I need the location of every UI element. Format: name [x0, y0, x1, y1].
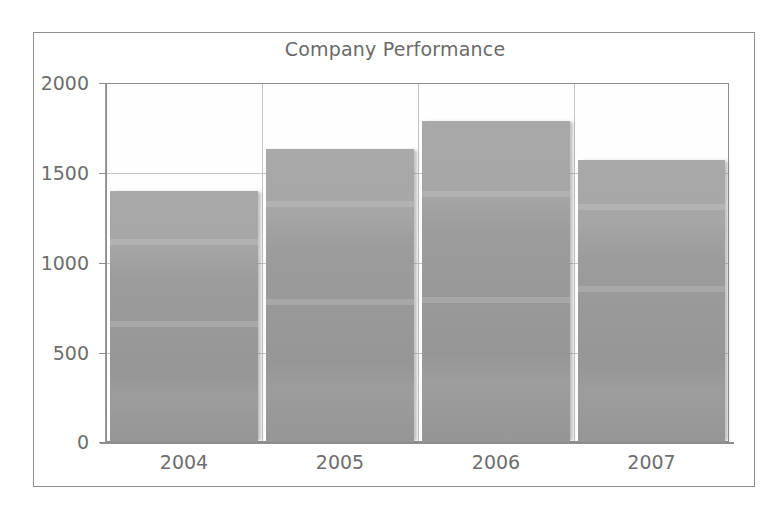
bar-2004[interactable]	[110, 191, 258, 442]
y-tick-label-0: 0	[0, 431, 89, 453]
y-tick-label-1500: 1500	[0, 162, 89, 184]
x-tick-label-2005: 2005	[262, 451, 418, 473]
bar-2006[interactable]	[422, 121, 570, 442]
bar-slot-2005	[262, 83, 418, 442]
bar-slot-2007	[574, 83, 729, 442]
x-tick-label-2006: 2006	[418, 451, 574, 473]
bar-2007[interactable]	[578, 160, 725, 442]
bar-sheen	[578, 204, 725, 210]
y-tick-label-500: 500	[0, 342, 89, 364]
chart-frame: Company Performance 2000 1500 1000 500 0	[33, 32, 755, 487]
x-tick-label-2004: 2004	[106, 451, 262, 473]
y-tick-label-1000: 1000	[0, 252, 89, 274]
bar-sheen	[422, 191, 570, 197]
x-axis-spine	[100, 442, 734, 444]
bars-layer	[106, 83, 729, 442]
bar-slot-2004	[106, 83, 262, 442]
bar-sheen	[110, 239, 258, 245]
bar-sheen	[110, 321, 258, 327]
y-tick-label-2000: 2000	[0, 72, 89, 94]
chart-screenshot: Company Performance 2000 1500 1000 500 0	[0, 0, 780, 513]
bar-sheen	[266, 299, 414, 305]
x-tick-label-2007: 2007	[574, 451, 729, 473]
bar-sheen	[578, 286, 725, 292]
chart-title: Company Performance	[34, 38, 756, 60]
bar-slot-2006	[418, 83, 574, 442]
bar-sheen	[266, 201, 414, 207]
bar-2005[interactable]	[266, 149, 414, 442]
x-axis-labels: 2004 2005 2006 2007	[106, 451, 729, 481]
bar-sheen	[422, 297, 570, 303]
